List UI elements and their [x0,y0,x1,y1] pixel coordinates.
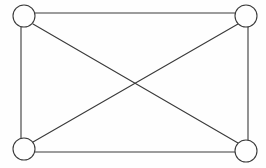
graph-diagram-canvas [0,0,266,168]
edge-layer [21,13,248,152]
graph-node-bottom-right [235,140,257,162]
graph-node-top-right [235,5,257,27]
graph-node-top-left [13,5,35,27]
graph-node-bottom-left [13,138,35,160]
graph-svg [0,0,266,168]
